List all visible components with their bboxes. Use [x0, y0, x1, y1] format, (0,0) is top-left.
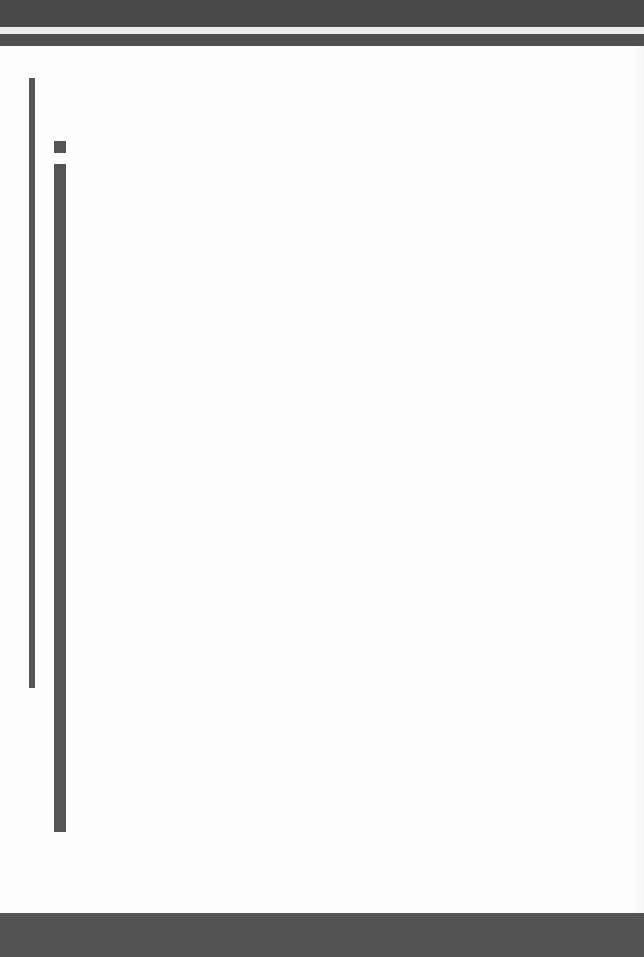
bottom-dark-band — [0, 913, 644, 957]
top-dark-band-lower — [0, 34, 644, 46]
top-dark-band — [0, 0, 644, 27]
page-edge-shadow — [634, 46, 644, 913]
square-marker — [54, 141, 66, 153]
main-vertical-rule — [54, 164, 66, 832]
left-vertical-rule — [29, 78, 35, 688]
top-light-stripe — [0, 27, 644, 34]
